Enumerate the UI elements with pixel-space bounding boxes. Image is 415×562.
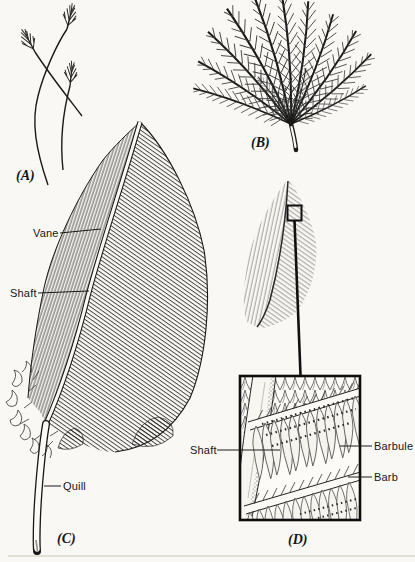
quill-label: Quill	[63, 480, 86, 492]
feather-figure-page: Vane Shaft Quill Shaft Barbule Barb (A) …	[0, 0, 415, 562]
panel-a-label: (A)	[16, 169, 35, 183]
panel-b-label: (B)	[251, 136, 270, 150]
barbule-label: Barbule	[374, 440, 413, 452]
panel-d-label: (D)	[288, 533, 307, 547]
panel-c-label: (C)	[57, 532, 76, 546]
shaft-label: Shaft	[10, 287, 37, 299]
down-feather-illustration	[190, 0, 379, 150]
feather-figure-canvas	[0, 0, 415, 562]
barb-label: Barb	[374, 471, 398, 483]
detail-feather-illustration	[244, 179, 317, 328]
inset-shaft-label: Shaft	[190, 444, 217, 456]
filoplume-feathers-illustration	[16, 2, 82, 185]
vane-label: Vane	[33, 227, 59, 239]
contour-feather-illustration	[6, 122, 208, 551]
